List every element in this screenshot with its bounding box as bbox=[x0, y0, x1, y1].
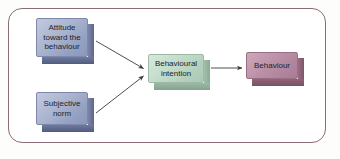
diagram-canvas: Attitude toward the behaviour Subjective… bbox=[0, 0, 340, 159]
arrow-attitude-to-intention bbox=[96, 41, 144, 69]
arrow-norm-to-intention bbox=[96, 76, 144, 113]
diagram-arrows bbox=[0, 0, 340, 159]
